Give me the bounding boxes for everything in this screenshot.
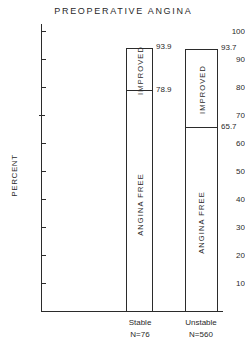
y-tick-80 xyxy=(42,87,46,88)
x-category-n-stable: N=76 xyxy=(105,330,175,339)
bar-unstable-divider-value: 65.7 xyxy=(221,122,237,131)
y-tick-100 xyxy=(42,31,46,32)
bar-unstable-divider xyxy=(185,127,218,128)
y-tick-60 xyxy=(42,143,46,144)
chart-container: PREOPERATIVE ANGINA PERCENT 10 20 30 40 … xyxy=(0,0,245,349)
chart-title: PREOPERATIVE ANGINA xyxy=(0,6,245,16)
bar-unstable-total-value: 93.7 xyxy=(221,43,237,52)
bar-stable-upper-segment-label: IMPROVED xyxy=(136,41,145,101)
y-axis-line xyxy=(41,24,42,312)
x-category-label-unstable: Unstable xyxy=(166,318,236,327)
y-tick-20 xyxy=(42,255,46,256)
bar-stable-lower-segment-label: ANGINA FREE xyxy=(136,165,145,245)
y-tick-90 xyxy=(42,59,46,60)
y-tick-30 xyxy=(42,227,46,228)
bar-stable-divider-value: 78.9 xyxy=(156,85,172,94)
y-tick-10 xyxy=(42,283,46,284)
x-category-n-unstable: N=560 xyxy=(166,330,236,339)
y-axis-title: PERCENT xyxy=(10,146,19,206)
y-tick-70 xyxy=(39,115,45,116)
x-category-label-stable: Stable xyxy=(105,318,175,327)
bar-unstable-upper-segment-label: IMPROVED xyxy=(198,60,207,120)
y-tick-50 xyxy=(42,171,46,172)
bar-unstable-lower-segment-label: ANGINA FREE xyxy=(197,183,206,263)
bar-stable-total-value: 93.9 xyxy=(156,42,172,51)
y-tick-40 xyxy=(42,199,46,200)
y-tick-label-100: 100 xyxy=(209,27,245,36)
